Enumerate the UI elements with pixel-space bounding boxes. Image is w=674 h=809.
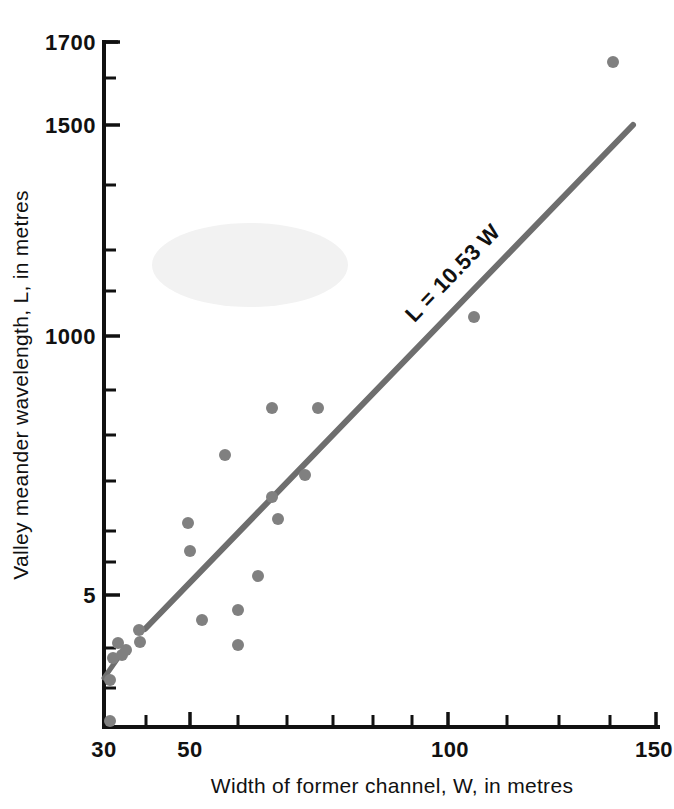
data-point <box>312 402 324 414</box>
scan-smudge <box>152 223 348 307</box>
data-point <box>299 469 311 481</box>
x-tick-label-100: 100 <box>431 737 469 762</box>
data-point <box>252 570 264 582</box>
data-point <box>272 513 284 525</box>
y-tick-label-1700: 1700 <box>45 30 96 55</box>
y-tick-label-500: 5 <box>83 583 96 608</box>
data-point <box>607 56 619 68</box>
data-point <box>134 636 146 648</box>
x-tick-label-150: 150 <box>635 737 673 762</box>
data-point <box>104 674 116 686</box>
data-point <box>182 517 194 529</box>
data-point <box>219 449 231 461</box>
data-point <box>232 639 244 651</box>
data-point <box>104 715 116 727</box>
x-tick-label-50: 50 <box>177 737 202 762</box>
data-point <box>184 545 196 557</box>
figure-container: 1700 1500 1000 5 30 50 100 150 Width of … <box>0 0 674 809</box>
data-point <box>112 637 124 649</box>
data-point <box>133 624 145 636</box>
y-tick-label-1000: 1000 <box>45 324 96 349</box>
y-axis-title: Valley meander wavelength, L, in metres <box>9 190 32 580</box>
chart-background <box>0 0 674 809</box>
y-tick-label-1500: 1500 <box>45 113 96 138</box>
data-point <box>266 402 278 414</box>
data-point <box>266 491 278 503</box>
data-point <box>468 311 480 323</box>
data-point <box>196 614 208 626</box>
x-tick-label-30: 30 <box>91 737 116 762</box>
chart-svg: 1700 1500 1000 5 30 50 100 150 Width of … <box>0 0 674 809</box>
data-point <box>232 604 244 616</box>
x-axis-title: Width of former channel, W, in metres <box>211 774 573 797</box>
